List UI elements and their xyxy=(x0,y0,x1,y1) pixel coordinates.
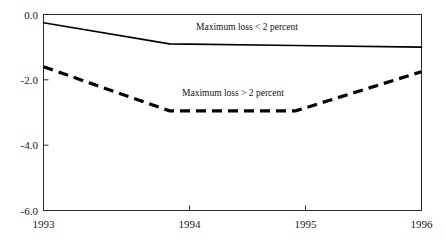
x-tick-label-1994: 1994 xyxy=(179,218,202,230)
y-tick-label-1: -2.0 xyxy=(21,74,39,86)
x-tick-label-1993: 1993 xyxy=(33,218,56,230)
x-tick-label-1995: 1995 xyxy=(295,218,318,230)
y-tick-label-0: 0.0 xyxy=(24,9,38,21)
annotation-max-loss-under-2: Maximum loss < 2 percent xyxy=(196,22,298,32)
y-tick-label-3: -6.0 xyxy=(21,205,39,217)
chart-figure: 0.0 -2.0 -4.0 -6.0 1993 1994 1995 1996 M… xyxy=(0,0,446,248)
x-tick-label-1996: 1996 xyxy=(411,218,434,230)
annotation-max-loss-over-2: Maximum loss > 2 percent xyxy=(182,88,284,98)
line-chart: 0.0 -2.0 -4.0 -6.0 1993 1994 1995 1996 M… xyxy=(0,0,446,248)
y-tick-label-2: -4.0 xyxy=(21,139,39,151)
